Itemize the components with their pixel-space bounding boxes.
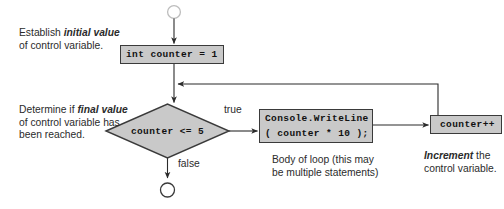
process-node-body: Console.WriteLine ( counter * 10 ); xyxy=(259,109,373,143)
caption-init-emphasis: initial value xyxy=(64,27,120,38)
caption-body: Body of loop (this may be multiple state… xyxy=(272,154,382,179)
process-node-body-code-line-2: ( counter * 10 ); xyxy=(265,126,369,141)
end-terminal-icon xyxy=(161,183,175,197)
flowchart-canvas: int counter = 1 counter <= 5 Console.Wri… xyxy=(0,0,504,209)
caption-init-tail: of control variable. xyxy=(19,40,103,51)
process-node-body-code-line-1: Console.WriteLine xyxy=(265,111,369,126)
caption-increment-emphasis: Increment xyxy=(424,150,473,161)
caption-condition: Determine if final value of control vari… xyxy=(19,104,131,142)
caption-init-lead: Establish xyxy=(19,27,64,38)
caption-condition-tail: of control variable has been reached. xyxy=(19,117,120,141)
edge-label-false: false xyxy=(178,158,200,169)
caption-init: Establish initial value of control varia… xyxy=(19,27,129,52)
edge-label-true: true xyxy=(224,104,242,115)
caption-condition-emphasis: final value xyxy=(77,104,127,115)
caption-condition-lead: Determine if xyxy=(19,104,77,115)
caption-increment: Increment the control variable. xyxy=(424,150,504,175)
process-node-init-code: int counter = 1 xyxy=(126,49,218,60)
process-node-increment: counter++ xyxy=(430,115,502,134)
start-terminal-icon xyxy=(168,6,181,19)
process-node-increment-code: counter++ xyxy=(440,119,495,130)
process-node-init: int counter = 1 xyxy=(120,45,224,64)
caption-body-tail: Body of loop (this may be multiple state… xyxy=(272,154,378,178)
